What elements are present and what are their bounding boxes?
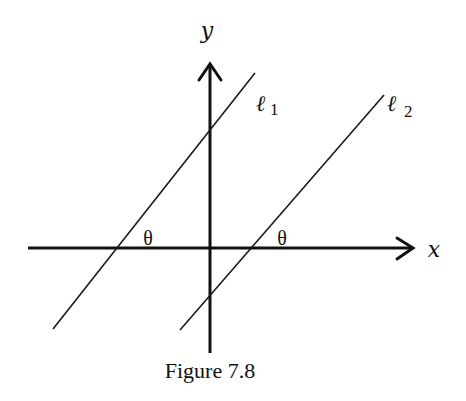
- x-axis-label: x: [428, 237, 441, 262]
- angle-label-l2: θ: [277, 227, 287, 249]
- line-l1-label: ℓ 1: [256, 91, 279, 119]
- line-l1-symbol: ℓ: [256, 91, 266, 116]
- line-l1-subscript: 1: [270, 100, 279, 119]
- figure-caption: Figure 7.8: [165, 358, 255, 383]
- line-l2-label: ℓ 2: [387, 91, 413, 121]
- line-l2-symbol: ℓ: [387, 91, 397, 116]
- y-axis-label: y: [200, 18, 214, 43]
- line-l2-subscript: 2: [404, 102, 413, 121]
- parallel-lines-diagram: y x ℓ 1 ℓ 2 θ θ Figure 7.8: [0, 0, 466, 401]
- angle-label-l1: θ: [143, 227, 153, 249]
- line-l1: [53, 73, 255, 329]
